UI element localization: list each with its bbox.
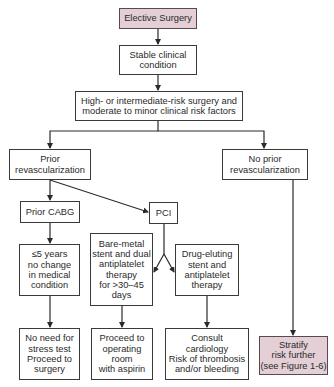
node-stratify-risk: Stratify risk further (see Figure 1-6) <box>259 336 328 375</box>
node-no-need-stress-test: No need for stress test Proceed to surge… <box>19 328 80 380</box>
node-pci: PCI <box>149 202 178 224</box>
node-drug-eluting-stent: Drug-eluting stent and antiplatelet ther… <box>175 244 239 296</box>
node-no-prior-revascularization: No prior revascularization <box>222 149 308 180</box>
node-risk-surgery: High- or intermediate-risk surgery and m… <box>75 91 243 121</box>
node-bare-metal-stent: Bare-metal stent and dual antiplatelet t… <box>90 233 153 306</box>
node-prior-cabg: Prior CABG <box>20 201 80 223</box>
node-elective-surgery: Elective Surgery <box>119 8 197 29</box>
arrow-pci-to-drug-eluting <box>164 254 174 272</box>
node-consult-cardiology: Consult cardiology Risk of thrombosis an… <box>165 328 249 380</box>
node-five-years: ≤5 years no change in medical condition <box>19 244 80 296</box>
arrow-pci-to-bare-metal <box>154 254 164 272</box>
node-proceed-operating-room: Proceed to operating room with aspirin <box>91 328 153 380</box>
arrow-risk-to-no-prior-revasc <box>158 131 264 148</box>
arrow-risk-to-prior-revasc <box>50 121 158 148</box>
node-stable-clinical-condition: Stable clinical condition <box>119 45 197 75</box>
node-prior-revascularization: Prior revascularization <box>9 149 91 180</box>
